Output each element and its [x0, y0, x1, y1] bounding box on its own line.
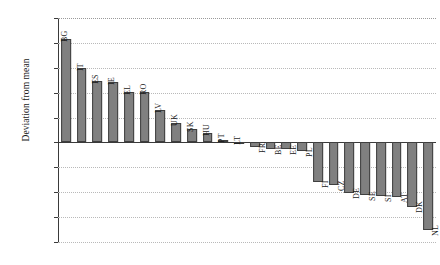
plot-area: 2.502.001.501.000.500.00−0.50−1.00−1.50−… — [58, 18, 436, 242]
bar-slot-UK[interactable]: UK — [168, 18, 184, 242]
y-axis-title: Deviation from mean — [21, 30, 31, 170]
bar-SE[interactable] — [360, 142, 370, 194]
bar-slot-BG[interactable]: BG — [58, 18, 74, 242]
bar-label-ES: ES — [92, 74, 101, 84]
bar-NL[interactable] — [423, 142, 433, 229]
bar-slot-SK[interactable]: SK — [184, 18, 200, 242]
bar-label-BG: BG — [60, 31, 69, 43]
bar-slot-SE[interactable]: SE — [357, 18, 373, 242]
bar-RO[interactable] — [140, 92, 150, 142]
bar-slot-FI[interactable]: FI — [310, 18, 326, 242]
bar-slot-PT[interactable]: PT — [216, 18, 232, 242]
bar-label-RO: RO — [139, 84, 148, 96]
bar-AT[interactable] — [392, 142, 402, 197]
bar-slot-NL[interactable]: NL — [420, 18, 436, 242]
bar-label-SK: SK — [186, 121, 195, 132]
bar-slot-SI[interactable]: SI — [373, 18, 389, 242]
bar-chart-figure: Deviation from mean 2.502.001.501.000.50… — [0, 0, 440, 265]
bar-LV[interactable] — [156, 110, 166, 143]
gridline--2.00 — [58, 242, 436, 243]
bar-slot-DK[interactable]: DK — [405, 18, 421, 242]
bar-slot-DE[interactable]: DE — [342, 18, 358, 242]
bar-label-HU: HU — [202, 125, 211, 137]
bar-DE[interactable] — [345, 142, 355, 193]
bars-group: BGITESIEELROLVUKSKHUPTLTFRBEEEPLFICZDESE… — [58, 18, 436, 242]
bar-label-NL: NL — [431, 224, 440, 235]
bar-label-IT: IT — [76, 63, 85, 71]
bar-slot-IT[interactable]: IT — [74, 18, 90, 242]
bar-slot-PL[interactable]: PL — [294, 18, 310, 242]
bar-slot-ES[interactable]: ES — [90, 18, 106, 242]
bar-slot-BE[interactable]: BE — [263, 18, 279, 242]
bar-slot-FR[interactable]: FR — [247, 18, 263, 242]
bar-IT[interactable] — [77, 68, 87, 143]
bar-label-UK: UK — [170, 114, 179, 126]
bar-slot-IE[interactable]: IE — [105, 18, 121, 242]
bar-slot-AT[interactable]: AT — [389, 18, 405, 242]
bar-label-LT: LT — [233, 135, 242, 144]
bar-ES[interactable] — [93, 81, 103, 143]
bar-slot-LV[interactable]: LV — [153, 18, 169, 242]
bar-slot-EL[interactable]: EL — [121, 18, 137, 242]
bar-slot-EE[interactable]: EE — [279, 18, 295, 242]
bar-SI[interactable] — [376, 142, 386, 196]
bar-slot-RO[interactable]: RO — [137, 18, 153, 242]
bar-label-PT: PT — [218, 133, 227, 143]
bar-EL[interactable] — [124, 92, 134, 142]
bar-label-EL: EL — [123, 85, 132, 95]
bar-BG[interactable] — [61, 39, 71, 142]
bar-slot-LT[interactable]: LT — [231, 18, 247, 242]
bar-slot-HU[interactable]: HU — [200, 18, 216, 242]
bar-FI[interactable] — [313, 142, 323, 182]
bar-IE[interactable] — [108, 82, 118, 143]
bar-label-IE: IE — [107, 77, 116, 85]
bar-CZ[interactable] — [329, 142, 339, 184]
bar-DK[interactable] — [408, 142, 418, 207]
y-tick-mark — [54, 242, 58, 243]
bar-slot-CZ[interactable]: CZ — [326, 18, 342, 242]
bar-label-LV: LV — [155, 102, 164, 112]
